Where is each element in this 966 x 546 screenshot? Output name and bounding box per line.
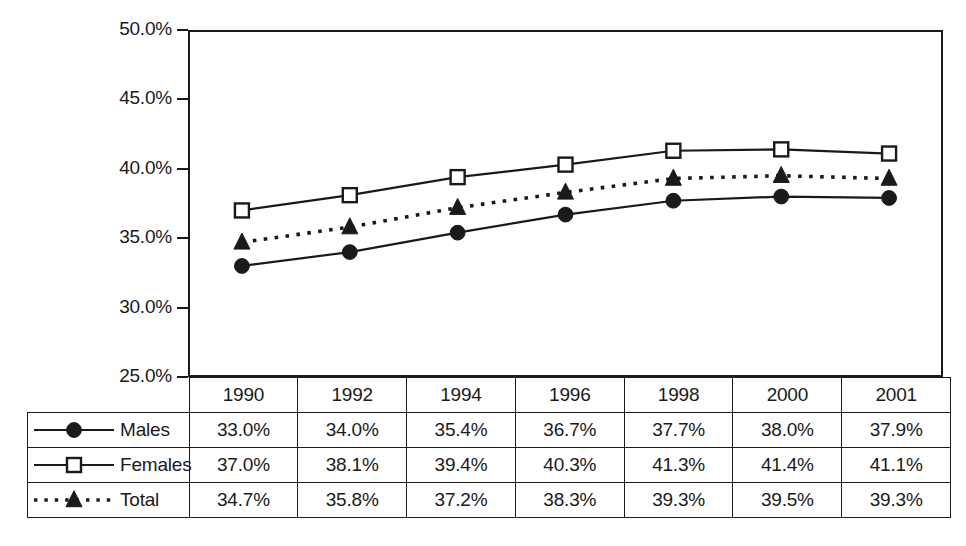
- data-point-females-1990: [235, 203, 249, 217]
- series-layer: [0, 0, 966, 390]
- data-point-males-2000: [774, 189, 789, 204]
- data-point-females-1996: [559, 158, 573, 172]
- table-column-header: 2000: [733, 378, 842, 413]
- table-row: Males33.0%34.0%35.4%36.7%37.7%38.0%37.9%: [28, 413, 951, 448]
- table-corner-spacer: [28, 378, 190, 413]
- table-cell: 34.7%: [189, 483, 298, 518]
- table-column-header: 1994: [407, 378, 516, 413]
- data-point-males-1998: [666, 193, 681, 208]
- table-row: Females37.0%38.1%39.4%40.3%41.3%41.4%41.…: [28, 448, 951, 483]
- table-cell: 41.4%: [733, 448, 842, 483]
- table-cell: 33.0%: [189, 413, 298, 448]
- legend-marker-total: [32, 489, 116, 511]
- legend-item-females: Females: [28, 448, 190, 483]
- table-cell: 37.9%: [842, 413, 951, 448]
- legend-symbol-males: [67, 423, 82, 438]
- table-cell: 37.7%: [624, 413, 733, 448]
- table-header-row: 1990199219941996199820002001: [28, 378, 951, 413]
- plot-area: 50.0%45.0%40.0%35.0%30.0%25.0%: [0, 0, 966, 390]
- legend-item-inner: Total: [28, 483, 189, 517]
- table-cell: 41.1%: [842, 448, 951, 483]
- table-column-header: 1998: [624, 378, 733, 413]
- table-cell: 37.0%: [189, 448, 298, 483]
- series-females: [235, 142, 896, 217]
- table-cell: 39.4%: [407, 448, 516, 483]
- table-cell: 35.8%: [298, 483, 407, 518]
- legend-item-inner: Females: [28, 448, 189, 482]
- legend-label: Females: [116, 454, 191, 476]
- data-point-total-2001: [881, 169, 897, 185]
- table-cell: 41.3%: [624, 448, 733, 483]
- table-column-header: 1992: [298, 378, 407, 413]
- data-point-males-1990: [235, 259, 250, 274]
- legend-label: Males: [116, 419, 170, 441]
- table-cell: 39.5%: [733, 483, 842, 518]
- table-row: Total34.7%35.8%37.2%38.3%39.3%39.5%39.3%: [28, 483, 951, 518]
- table-cell: 37.2%: [407, 483, 516, 518]
- table-cell: 39.3%: [624, 483, 733, 518]
- table-cell: 38.0%: [733, 413, 842, 448]
- data-point-males-2001: [882, 191, 897, 206]
- legend-marker-males: [32, 419, 116, 441]
- table-cell: 40.3%: [515, 448, 624, 483]
- legend-item-inner: Males: [28, 413, 189, 447]
- data-point-females-2001: [882, 147, 896, 161]
- data-point-total-1992: [342, 218, 358, 234]
- data-point-females-1998: [666, 144, 680, 158]
- data-table-body: 1990199219941996199820002001Males33.0%34…: [28, 378, 951, 518]
- data-point-females-2000: [774, 142, 788, 156]
- legend-symbol-females: [67, 458, 81, 472]
- table-cell: 38.3%: [515, 483, 624, 518]
- data-point-total-1994: [450, 198, 466, 214]
- data-point-males-1994: [450, 225, 465, 240]
- legend-marker-females: [32, 454, 116, 476]
- data-point-females-1994: [451, 170, 465, 184]
- data-point-females-1992: [343, 188, 357, 202]
- table-cell: 34.0%: [298, 413, 407, 448]
- table-column-header: 1996: [515, 378, 624, 413]
- data-point-total-2000: [773, 166, 789, 182]
- table-cell: 39.3%: [842, 483, 951, 518]
- legend-label: Total: [116, 489, 159, 511]
- series-males: [235, 189, 897, 273]
- table-cell: 38.1%: [298, 448, 407, 483]
- table-cell: 36.7%: [515, 413, 624, 448]
- legend-item-total: Total: [28, 483, 190, 518]
- legend-item-males: Males: [28, 413, 190, 448]
- table-column-header: 2001: [842, 378, 951, 413]
- data-point-males-1996: [558, 207, 573, 222]
- data-point-total-1990: [234, 233, 250, 249]
- data-table: 1990199219941996199820002001Males33.0%34…: [27, 377, 951, 518]
- chart-figure: 50.0%45.0%40.0%35.0%30.0%25.0% 199019921…: [0, 0, 966, 546]
- table-column-header: 1990: [189, 378, 298, 413]
- data-point-males-1992: [342, 245, 357, 260]
- table-cell: 35.4%: [407, 413, 516, 448]
